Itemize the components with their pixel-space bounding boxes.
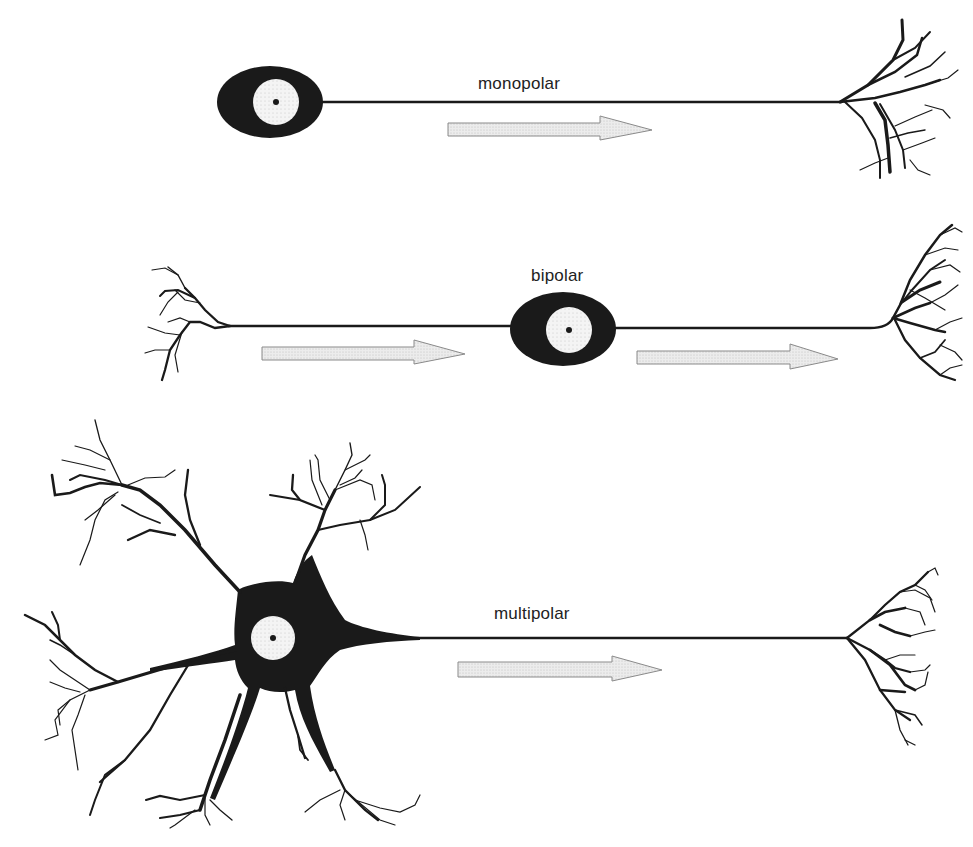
monopolar-neuron: [217, 20, 958, 178]
signal-arrow-bipolar-left: [262, 340, 465, 364]
signal-arrow-monopolar: [448, 116, 652, 140]
bipolar-neuron: [145, 225, 962, 380]
dendrites-bipolar: [145, 267, 230, 380]
nucleolus-bipolar: [566, 327, 572, 333]
nucleolus-monopolar: [273, 99, 279, 105]
nucleolus-multipolar: [270, 635, 276, 641]
label-bipolar: bipolar: [531, 266, 583, 286]
cell-body-bipolar: [510, 292, 616, 366]
multipolar-neuron: [25, 420, 938, 828]
label-multipolar: multipolar: [494, 604, 570, 624]
diagram-canvas: [0, 0, 973, 847]
axon-terminal-multipolar: [847, 568, 938, 745]
neuron-types-diagram: monopolar bipolar multipolar: [0, 0, 973, 847]
axon-terminal-bipolar: [893, 225, 962, 380]
cell-body-monopolar: [217, 66, 323, 138]
cell-body-multipolar: [150, 555, 420, 800]
signal-arrow-bipolar-right: [637, 344, 838, 369]
axon-terminal-monopolar: [840, 20, 958, 178]
axon-bipolar-right: [614, 318, 893, 328]
label-monopolar: monopolar: [478, 74, 560, 94]
signal-arrow-multipolar: [458, 656, 662, 681]
